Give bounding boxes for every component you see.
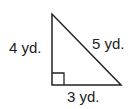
bottom-leg-label: 3 yd. <box>67 89 100 104</box>
right-angle-marker <box>52 73 64 85</box>
hypotenuse-label: 5 yd. <box>92 36 125 51</box>
left-leg-label: 4 yd. <box>9 40 42 55</box>
right-triangle-diagram: 4 yd. 5 yd. 3 yd. <box>0 0 135 109</box>
